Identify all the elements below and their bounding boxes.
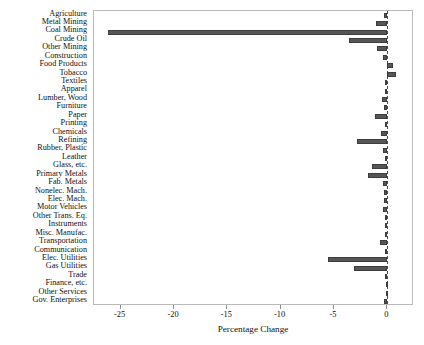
- bar: [386, 282, 388, 287]
- bar: [385, 215, 387, 220]
- bar: [380, 240, 387, 245]
- x-tick-label: -10: [274, 310, 285, 320]
- x-tick-label: -25: [114, 310, 125, 320]
- y-axis-label: Gov. Enterprises: [0, 296, 87, 304]
- plot-area: [93, 10, 413, 305]
- y-axis-category-labels: AgricultureMetal MiningCoal MiningCrude …: [0, 10, 90, 305]
- bar: [384, 13, 387, 18]
- bar: [368, 173, 387, 178]
- bar: [381, 131, 387, 136]
- bar: [354, 266, 387, 271]
- bar: [375, 114, 388, 119]
- bar: [385, 274, 387, 279]
- bar: [385, 89, 387, 94]
- bar: [383, 148, 387, 153]
- zero-reference-line: [387, 11, 388, 304]
- x-tick-mark: [386, 305, 387, 309]
- bar: [383, 207, 387, 212]
- bar: [377, 46, 388, 51]
- bar: [385, 80, 387, 85]
- bar: [108, 30, 387, 35]
- bar: [385, 232, 387, 237]
- x-tick-label: -5: [330, 310, 337, 320]
- plot-inner: [94, 11, 412, 304]
- x-tick-label: -15: [221, 310, 232, 320]
- bar: [385, 249, 387, 254]
- bar: [386, 291, 388, 296]
- x-axis-title: Percentage Change: [93, 324, 413, 334]
- x-tick-label: -20: [167, 310, 178, 320]
- bar: [384, 299, 387, 304]
- bar-chart: AgricultureMetal MiningCoal MiningCrude …: [0, 0, 424, 345]
- bar: [328, 257, 388, 262]
- bar: [385, 156, 387, 161]
- x-tick-mark: [280, 305, 281, 309]
- x-tick-mark: [120, 305, 121, 309]
- bar: [387, 72, 396, 77]
- x-tick-mark: [333, 305, 334, 309]
- x-axis-tick-labels: -25-20-15-10-50: [93, 310, 413, 322]
- bar: [376, 21, 388, 26]
- bar: [372, 164, 387, 169]
- bar: [385, 223, 387, 228]
- x-tick-label: 0: [384, 310, 388, 320]
- x-tick-mark: [226, 305, 227, 309]
- bar: [383, 181, 387, 186]
- bar: [384, 198, 387, 203]
- bar: [387, 63, 392, 68]
- bar: [384, 190, 387, 195]
- bar: [383, 55, 387, 60]
- bar: [384, 105, 387, 110]
- bar: [382, 97, 387, 102]
- bar: [349, 38, 387, 43]
- x-tick-mark: [173, 305, 174, 309]
- bar: [385, 122, 387, 127]
- bar: [357, 139, 387, 144]
